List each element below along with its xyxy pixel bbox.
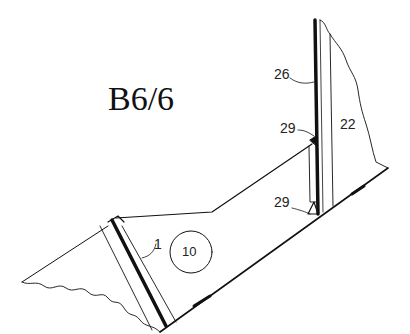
rib-1-outer-line <box>100 226 152 330</box>
lower-edge-weld-a <box>194 296 210 306</box>
leader-29-upper <box>298 130 314 136</box>
left-break-line <box>22 282 160 332</box>
figure-title: B6/6 <box>108 80 174 118</box>
technical-drawing <box>0 0 410 334</box>
label-part-29-upper: 29 <box>280 120 296 136</box>
label-part-22: 22 <box>340 116 356 132</box>
lower-edge-weld-b <box>352 186 364 194</box>
rib-1-cap <box>108 216 124 222</box>
label-part-26: 26 <box>274 66 290 82</box>
plate-26-thin <box>320 20 323 212</box>
label-part-29-lower: 29 <box>274 194 290 210</box>
label-part-10: 10 <box>182 244 196 259</box>
plate-stiffener <box>309 146 316 202</box>
plate-26-thick <box>315 20 318 214</box>
rib-1-inner-line <box>122 226 176 322</box>
label-part-1: 1 <box>154 236 162 252</box>
left-wedge-edge <box>22 226 108 282</box>
plate-22-inner-line <box>330 34 333 206</box>
leader-26 <box>290 78 314 83</box>
leader-29-lower <box>292 208 310 214</box>
